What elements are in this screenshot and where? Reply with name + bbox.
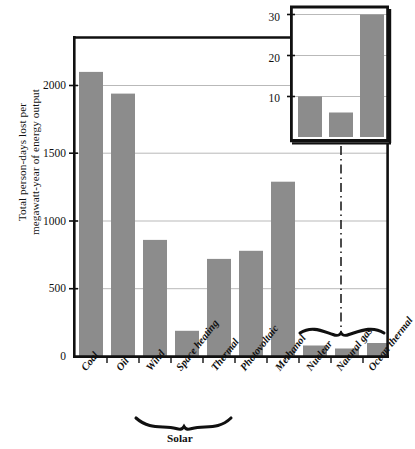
inset-bar-ocean-thermal[interactable] xyxy=(360,15,384,138)
bar-coal[interactable] xyxy=(79,72,103,357)
solar-group-brace xyxy=(136,418,231,429)
inset-bar-natural-gas[interactable] xyxy=(329,113,353,138)
group-label-solar: Solar xyxy=(167,432,193,444)
inset-bar-nuclear[interactable] xyxy=(298,97,322,138)
bar-oil[interactable] xyxy=(111,94,135,357)
bar-wind[interactable] xyxy=(143,240,167,357)
